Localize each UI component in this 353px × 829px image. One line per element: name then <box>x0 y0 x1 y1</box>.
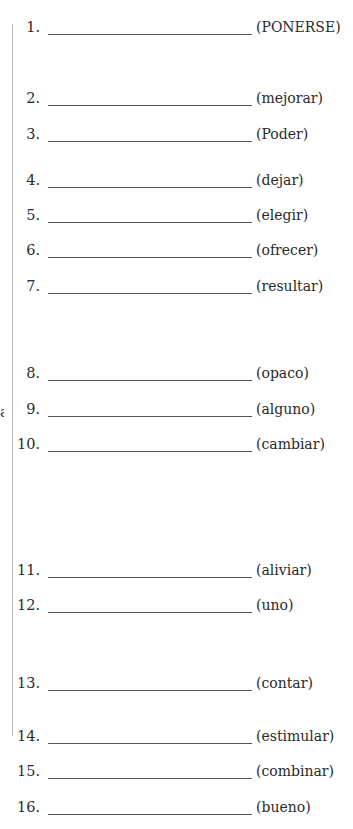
answer-blank[interactable] <box>48 813 252 815</box>
exercise-item: 11.(aliviar) <box>0 560 353 580</box>
answer-blank[interactable] <box>48 689 252 691</box>
answer-blank[interactable] <box>48 777 252 779</box>
verb-hint: (combinar) <box>256 761 334 781</box>
item-number: 5. <box>26 205 40 225</box>
verb-hint: (Poder) <box>256 124 308 144</box>
answer-blank[interactable] <box>48 576 252 578</box>
item-number: 12. <box>17 595 40 615</box>
exercise-item: 5.(elegir) <box>0 205 353 225</box>
exercise-item: 12.(uno) <box>0 595 353 615</box>
answer-blank[interactable] <box>48 186 252 188</box>
answer-blank[interactable] <box>48 742 252 744</box>
exercise-item: 10.(cambiar) <box>0 434 353 454</box>
verb-hint: (uno) <box>256 595 293 615</box>
verb-hint: (resultar) <box>256 276 323 296</box>
answer-blank[interactable] <box>48 33 252 35</box>
item-number: 9. <box>26 399 40 419</box>
verb-hint: (aliviar) <box>256 560 312 580</box>
exercise-item: 7.(resultar) <box>0 276 353 296</box>
item-number: 11. <box>17 560 40 580</box>
exercise-item: 14.(estimular) <box>0 726 353 746</box>
item-number: 6. <box>26 240 40 260</box>
verb-hint: (mejorar) <box>256 88 323 108</box>
exercise-item: 6.(ofrecer) <box>0 240 353 260</box>
item-number: 4. <box>26 170 40 190</box>
item-number: 1. <box>26 17 40 37</box>
exercise-item: 3.(Poder) <box>0 124 353 144</box>
verb-hint: (opaco) <box>256 363 309 383</box>
answer-blank[interactable] <box>48 415 252 417</box>
exercise-item: 2.(mejorar) <box>0 88 353 108</box>
verb-hint: (alguno) <box>256 399 315 419</box>
exercise-item: 16.(bueno) <box>0 797 353 817</box>
item-number: 3. <box>26 124 40 144</box>
item-number: 2. <box>26 88 40 108</box>
answer-blank[interactable] <box>48 611 252 613</box>
verb-hint: (cambiar) <box>256 434 325 454</box>
item-number: 15. <box>17 761 40 781</box>
answer-blank[interactable] <box>48 256 252 258</box>
verb-hint: (PONERSE) <box>256 17 341 37</box>
item-number: 16. <box>17 797 40 817</box>
answer-blank[interactable] <box>48 450 252 452</box>
verb-hint: (ofrecer) <box>256 240 318 260</box>
verb-hint: (elegir) <box>256 205 308 225</box>
verb-hint: (estimular) <box>256 726 334 746</box>
item-number: 7. <box>26 276 40 296</box>
exercise-item: 8.(opaco) <box>0 363 353 383</box>
item-number: 13. <box>17 673 40 693</box>
exercise-item: 9.(alguno) <box>0 399 353 419</box>
item-number: 10. <box>17 434 40 454</box>
exercise-item: 13.(contar) <box>0 673 353 693</box>
verb-hint: (dejar) <box>256 170 304 190</box>
item-number: 8. <box>26 363 40 383</box>
verb-hint: (contar) <box>256 673 313 693</box>
answer-blank[interactable] <box>48 292 252 294</box>
answer-blank[interactable] <box>48 379 252 381</box>
exercise-item: 15.(combinar) <box>0 761 353 781</box>
verb-hint: (bueno) <box>256 797 311 817</box>
exercise-item: 1.(PONERSE) <box>0 17 353 37</box>
exercise-item: 4.(dejar) <box>0 170 353 190</box>
item-number: 14. <box>17 726 40 746</box>
answer-blank[interactable] <box>48 104 252 106</box>
answer-blank[interactable] <box>48 221 252 223</box>
answer-blank[interactable] <box>48 140 252 142</box>
